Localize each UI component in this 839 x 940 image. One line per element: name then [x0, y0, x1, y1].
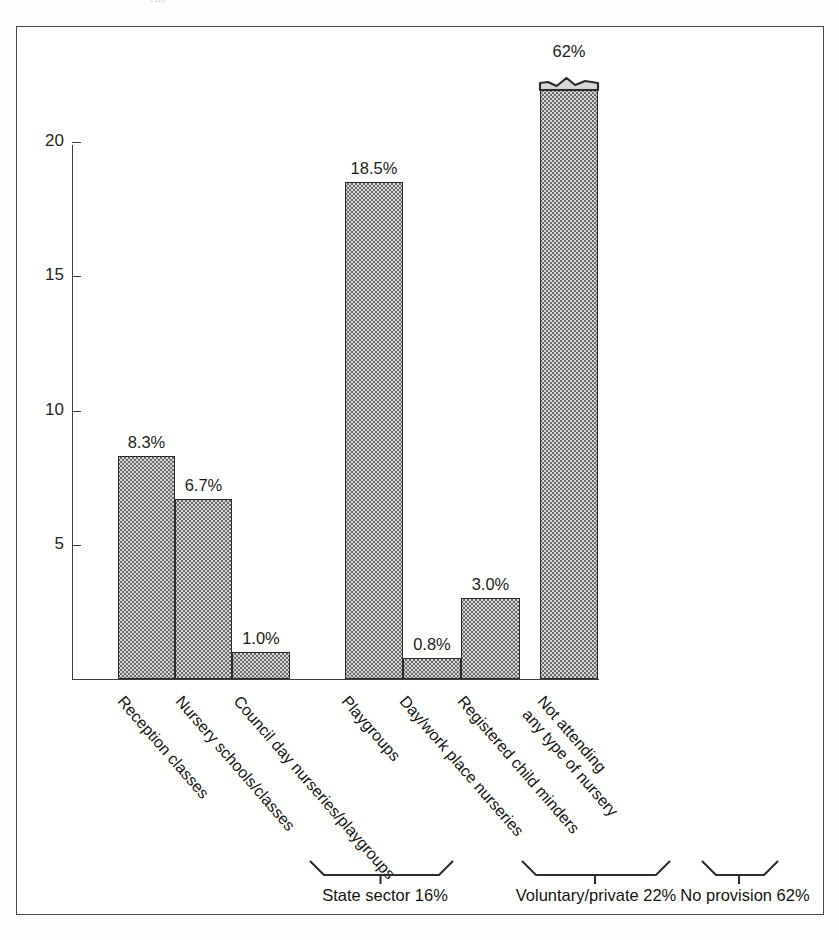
- x-axis-category-label: Playgroups: [337, 692, 404, 765]
- group-bracket-label: No provision 62%: [615, 886, 839, 905]
- group-bracket: [308, 859, 453, 885]
- bar-3[interactable]: [232, 652, 290, 679]
- y-axis-tick-10: [72, 411, 81, 412]
- bar-value-label: 3.0%: [439, 575, 542, 594]
- bar-value-label: 18.5%: [323, 159, 425, 178]
- bar-value-label: 8.3%: [96, 433, 197, 452]
- group-bracket: [700, 859, 778, 885]
- group-bracket: [520, 859, 670, 885]
- bar-6[interactable]: [461, 598, 520, 679]
- page-canvas: .... 5101520 8.3%6.7%1.0%18.5%0.8%3.0%62…: [0, 0, 839, 940]
- y-axis-tick-label: 10: [24, 400, 64, 420]
- x-axis-baseline: [72, 679, 599, 680]
- y-axis-tick-label: 5: [24, 534, 64, 554]
- bar-value-label: 1.0%: [210, 629, 312, 648]
- y-axis-tick-5: [72, 545, 81, 546]
- bar-chart-plot: 5101520 8.3%6.7%1.0%18.5%0.8%3.0%62% Rec…: [0, 0, 839, 940]
- bar-value-label: 6.7%: [153, 476, 254, 495]
- bar-7[interactable]: [540, 86, 598, 679]
- bar-4[interactable]: [345, 182, 403, 679]
- y-axis-tick-label: 20: [24, 131, 64, 151]
- bar-5[interactable]: [403, 658, 461, 679]
- y-axis-tick-15: [72, 276, 81, 277]
- bar-2[interactable]: [175, 499, 232, 679]
- y-axis-tick-label: 15: [24, 265, 64, 285]
- y-axis-line: [72, 145, 73, 680]
- bar-value-label: 62%: [518, 42, 620, 61]
- y-axis-tick-20: [72, 142, 81, 143]
